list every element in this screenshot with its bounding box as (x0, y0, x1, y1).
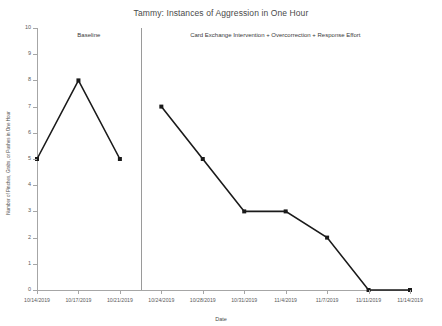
x-axis-tick (120, 290, 121, 294)
plot-area: 01234567891010/14/201910/17/201910/21/20… (37, 28, 410, 290)
y-axis-tick (33, 28, 37, 29)
x-axis-tick-label: 10/14/2019 (24, 298, 50, 303)
x-axis-tick-label: 11/4/2019 (274, 298, 297, 303)
x-axis-tick (327, 290, 328, 294)
y-axis-tick-label: 10 (25, 25, 31, 31)
phase-label-baseline: Baseline (77, 32, 100, 38)
data-point-marker (325, 236, 329, 240)
chart-title: Tammy: Instances of Aggression in One Ho… (0, 8, 442, 18)
y-axis-tick-label: 6 (28, 130, 31, 136)
y-axis-tick-label: 2 (28, 235, 31, 241)
x-axis-tick-label: 11/7/2019 (316, 298, 339, 303)
x-axis-title: Date (0, 316, 442, 322)
y-axis-tick-label: 0 (28, 287, 31, 293)
y-axis-tick-label: 3 (28, 209, 31, 215)
y-axis-tick (33, 238, 37, 239)
y-axis-tick (33, 107, 37, 108)
phase-change-divider (141, 28, 142, 290)
y-axis-tick-label: 1 (28, 261, 31, 267)
y-axis-tick-label: 8 (28, 78, 31, 84)
data-point-marker (76, 78, 80, 82)
y-axis-tick (33, 133, 37, 134)
data-series-line (37, 28, 410, 290)
x-axis-tick-label: 11/14/2019 (397, 298, 423, 303)
x-axis-tick (37, 290, 38, 294)
data-point-marker (118, 157, 122, 161)
x-axis-tick (203, 290, 204, 294)
x-axis-tick-label: 11/11/2019 (356, 298, 381, 303)
x-axis-tick-label: 10/17/2019 (65, 298, 91, 303)
data-point-marker (242, 209, 246, 213)
y-axis-tick-label: 7 (28, 104, 31, 110)
x-axis-tick (410, 290, 411, 294)
y-axis-tick-label: 5 (28, 156, 31, 162)
x-axis-tick-label: 10/31/2019 (231, 298, 257, 303)
x-axis-tick-label: 10/24/2019 (148, 298, 174, 303)
y-axis-tick (33, 211, 37, 212)
y-axis-tick (33, 80, 37, 81)
x-axis-tick (369, 290, 370, 294)
series-segment-0 (37, 80, 120, 159)
y-axis-tick (33, 54, 37, 55)
y-axis-tick (33, 159, 37, 160)
y-axis-tick-label: 9 (28, 51, 31, 57)
phase-label-intervention: Card Exchange Intervention + Overcorrect… (190, 32, 360, 38)
series-segment-1 (161, 107, 410, 290)
x-axis-line (37, 290, 410, 291)
x-axis-tick (161, 290, 162, 294)
y-axis-tick-label: 4 (28, 182, 31, 188)
y-axis-tick (33, 185, 37, 186)
y-axis-tick (33, 264, 37, 265)
x-axis-tick (78, 290, 79, 294)
x-axis-tick-label: 10/21/2019 (107, 298, 133, 303)
x-axis-tick-label: 10/28/2019 (190, 298, 216, 303)
y-axis-title: Number of Pinches, Grabs, or Pushes in O… (6, 111, 11, 214)
x-axis-tick (286, 290, 287, 294)
x-axis-tick (244, 290, 245, 294)
chart-container: Tammy: Instances of Aggression in One Ho… (0, 0, 442, 326)
data-point-marker (284, 209, 288, 213)
data-point-marker (159, 105, 163, 109)
data-point-marker (201, 157, 205, 161)
